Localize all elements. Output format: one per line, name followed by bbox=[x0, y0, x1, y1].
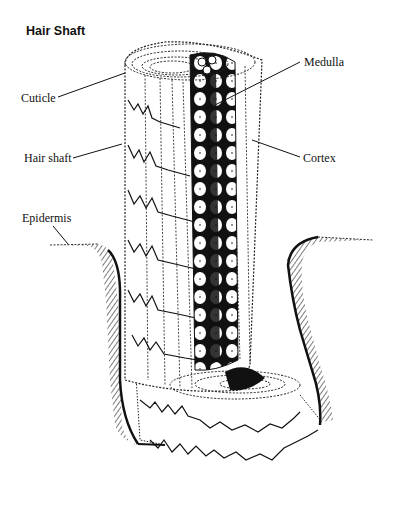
epidermis-leader-line bbox=[53, 226, 68, 244]
label-cuticle: Cuticle bbox=[21, 91, 56, 106]
cortex-leader-line bbox=[252, 140, 300, 157]
figure-title: Hair Shaft bbox=[26, 24, 85, 38]
epidermis-right bbox=[287, 237, 373, 425]
label-hair-shaft: Hair shaft bbox=[24, 151, 72, 166]
hair-illustration bbox=[0, 0, 393, 516]
label-medulla: Medulla bbox=[304, 55, 344, 70]
hair-shaft-body bbox=[125, 42, 300, 399]
hair-shaft-leader-line bbox=[73, 144, 122, 158]
label-epidermis: Epidermis bbox=[22, 211, 71, 226]
label-cortex: Cortex bbox=[303, 151, 336, 166]
hair-shaft-diagram: Hair Shaft Cuticle Hair shaft Epidermis … bbox=[0, 0, 393, 516]
cuticle-leader-line bbox=[58, 73, 125, 97]
